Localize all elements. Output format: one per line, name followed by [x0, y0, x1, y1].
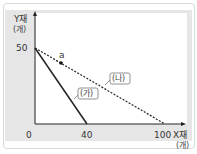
y-axis-unit: (개) [13, 25, 26, 35]
y-axis-arrow-icon [33, 11, 37, 16]
callout-na-pointer [105, 80, 110, 85]
x-tick-100: 100 [154, 130, 171, 140]
y-tick-50: 50 [16, 43, 27, 53]
line-na-label: (나) [112, 74, 125, 84]
callout-ga-pointer [74, 95, 78, 99]
x-axis-label: X재 [173, 130, 187, 140]
origin-label: 0 [26, 130, 32, 140]
x-axis-unit: (개) [176, 141, 189, 151]
x-tick-40: 40 [81, 130, 92, 140]
line-ga-label: (가) [80, 89, 93, 99]
point-a-label: a [59, 50, 65, 60]
y-axis-label: Y재 [14, 14, 28, 24]
line-na [35, 48, 165, 124]
x-axis-arrow-icon [181, 122, 186, 126]
point-a-marker [59, 61, 63, 65]
